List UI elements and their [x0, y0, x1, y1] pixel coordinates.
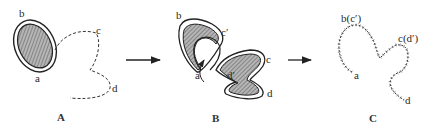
label-a-d: d [112, 83, 118, 94]
label-b-d-prime: d′ [227, 70, 235, 81]
dashed-path [55, 31, 110, 98]
figure: b a c d A b c′ a d′ c d B b(c′) c(d′) a … [0, 0, 434, 134]
panel-a [5, 13, 110, 98]
label-a-a: a [35, 73, 40, 84]
label-b-b: b [176, 10, 182, 21]
label-c-c-d-prime: c(d′) [398, 33, 418, 44]
caption-a: A [57, 112, 65, 123]
caption-c: C [369, 113, 377, 124]
label-b-a: a [195, 70, 200, 81]
caption-b: B [212, 113, 219, 124]
label-c-a: a [354, 70, 359, 81]
label-a-b: b [19, 8, 25, 19]
label-b-c-prime: c′ [221, 27, 228, 38]
label-b-c: c [266, 54, 271, 65]
label-c-d: d [405, 95, 411, 106]
label-c-b-c-prime: b(c′) [341, 13, 361, 24]
label-a-c: c [96, 25, 101, 36]
label-b-d: d [267, 88, 273, 99]
